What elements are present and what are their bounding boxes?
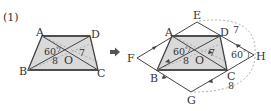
vertex-f: F [127, 52, 135, 65]
point-o: O [64, 54, 73, 67]
diagram-canvas: (1) A D B C O 60° 8 7 [0, 0, 271, 111]
vertex-b-right: B [150, 72, 158, 85]
segment-label-do-right: 7 [209, 47, 215, 58]
segment-label-cg: 8 [228, 80, 234, 91]
right-arrow-icon [110, 48, 120, 57]
segment-label-do: 7 [79, 47, 85, 58]
segment-label-dh: 7 [233, 24, 239, 35]
vertex-h: H [256, 50, 266, 63]
vertex-d-right: D [220, 26, 229, 39]
segment-label-bo-right: 8 [183, 55, 189, 66]
vertex-e: E [193, 9, 201, 22]
vertex-c: C [97, 67, 105, 80]
vertex-b: B [19, 65, 27, 78]
vertex-a-right: A [164, 26, 174, 39]
trapezoid-abcd [28, 36, 98, 70]
left-trapezoid-figure: A D B C O 60° 8 7 [19, 26, 105, 80]
right-parallelogram-figure: E A D H F B C G O 60° 60° 8 7 7 8 [127, 9, 266, 107]
vertex-g: G [187, 94, 196, 107]
point-o-right: O [195, 54, 204, 67]
vertex-a: A [35, 26, 45, 39]
angle-label-dhc: 60° [231, 48, 246, 60]
segment-label-bo: 8 [52, 55, 58, 66]
transform-arrow [110, 48, 120, 57]
problem-number: (1) [3, 11, 19, 24]
vertex-d: D [91, 28, 100, 41]
